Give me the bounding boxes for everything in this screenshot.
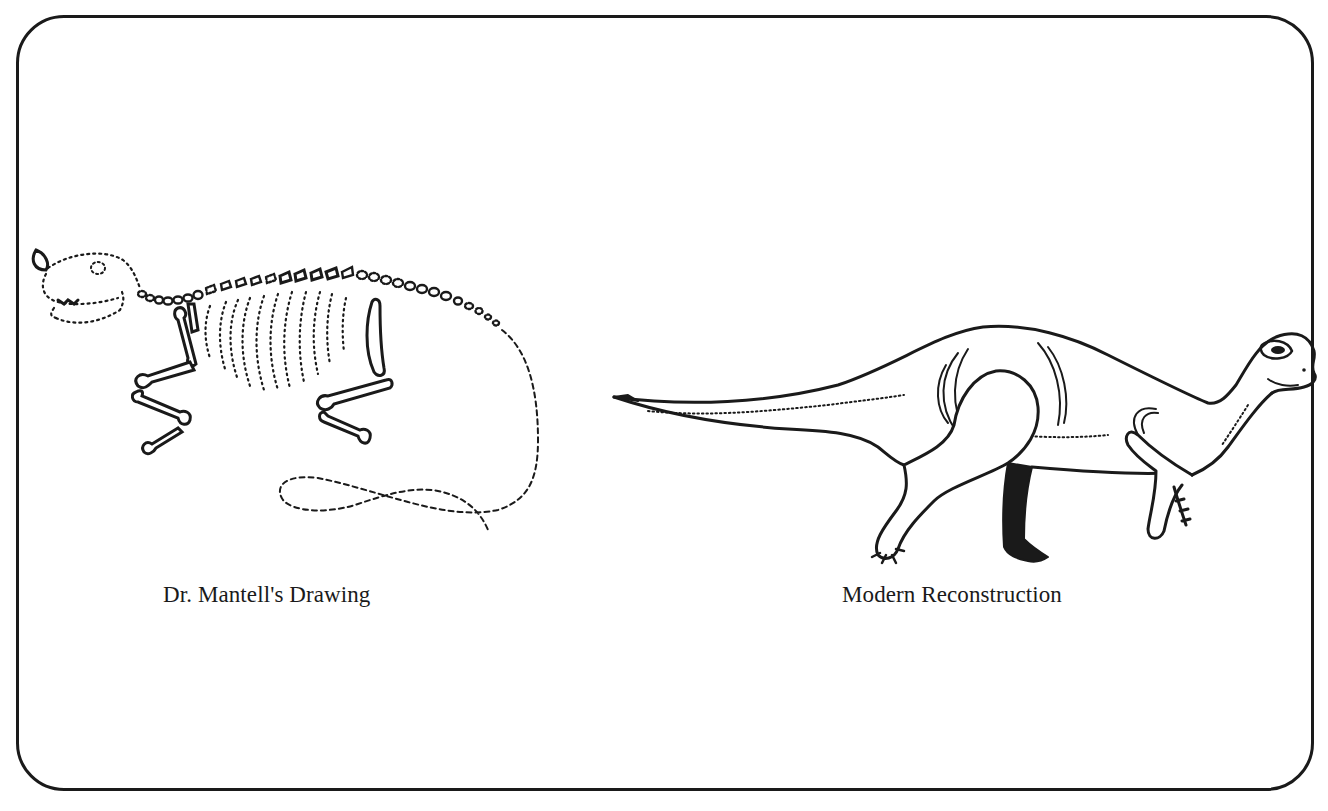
iguanodon-icon <box>608 315 1318 570</box>
modern-reconstruction-caption: Modern Reconstruction <box>842 582 1062 608</box>
mantell-drawing-caption: Dr. Mantell's Drawing <box>163 582 370 608</box>
mantell-skeleton-icon <box>28 240 588 540</box>
mantell-drawing-illustration <box>28 240 588 540</box>
modern-reconstruction-illustration <box>608 315 1318 570</box>
